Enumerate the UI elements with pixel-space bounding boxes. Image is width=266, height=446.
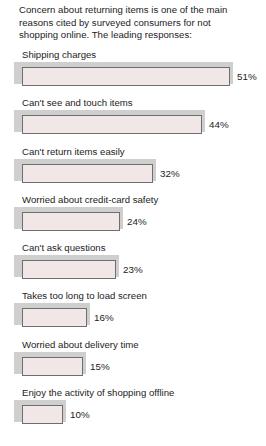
chart-row: Takes too long to load screen16% <box>0 290 266 338</box>
chart-row: Can't return items easily32% <box>0 146 266 194</box>
bar-value-label: 23% <box>123 263 143 276</box>
bar <box>22 405 63 424</box>
bar <box>22 308 87 327</box>
bar <box>22 67 230 86</box>
bar-value-label: 32% <box>160 167 180 180</box>
bar-area: 16% <box>14 303 266 331</box>
bar-value-label: 24% <box>127 215 147 228</box>
bar-area: 10% <box>14 400 266 428</box>
chart-row: Shipping charges51% <box>0 49 266 97</box>
bar-category-label: Worried about delivery time <box>22 339 139 351</box>
bar-area: 32% <box>14 159 266 187</box>
chart-row: Can't see and touch items44% <box>0 97 266 145</box>
bar-area: 51% <box>14 62 266 90</box>
bar-area: 15% <box>14 352 266 380</box>
bar-value-label: 15% <box>90 360 110 373</box>
bar <box>22 357 83 376</box>
bar-category-label: Can't see and touch items <box>22 97 133 109</box>
chart-row: Can't ask questions23% <box>0 242 266 290</box>
bar-area: 23% <box>14 255 266 283</box>
bar <box>22 115 202 134</box>
chart-row: Worried about credit-card safety24% <box>0 194 266 242</box>
bar-category-label: Can't ask questions <box>22 242 105 254</box>
chart-row: Enjoy the activity of shopping offline10… <box>0 387 266 435</box>
bar <box>22 164 153 183</box>
bar-area: 24% <box>14 207 266 235</box>
intro-paragraph: Concern about returning items is one of … <box>19 4 251 42</box>
infographic-page: Concern about returning items is one of … <box>0 0 266 446</box>
bar-category-label: Can't return items easily <box>22 146 125 158</box>
horizontal-bar-chart: Shipping charges51%Can't see and touch i… <box>0 49 266 435</box>
bar <box>22 260 116 279</box>
bar-category-label: Takes too long to load screen <box>22 290 147 302</box>
bar-area: 44% <box>14 110 266 138</box>
bar-value-label: 10% <box>70 408 90 421</box>
bar-category-label: Shipping charges <box>22 49 96 61</box>
bar-value-label: 51% <box>237 70 257 83</box>
bar-category-label: Enjoy the activity of shopping offline <box>22 387 174 399</box>
bar-value-label: 44% <box>209 118 229 131</box>
bar-category-label: Worried about credit-card safety <box>22 194 158 206</box>
bar <box>22 212 120 231</box>
chart-row: Worried about delivery time15% <box>0 339 266 387</box>
bar-value-label: 16% <box>94 311 114 324</box>
